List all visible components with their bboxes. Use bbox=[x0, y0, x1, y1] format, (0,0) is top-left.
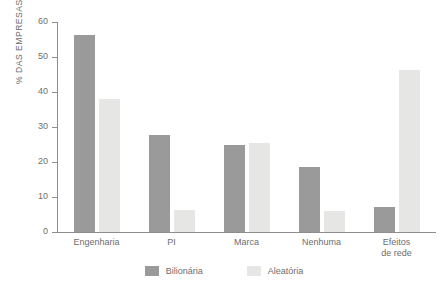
y-tick-mark bbox=[52, 22, 58, 23]
legend-label: Bilionária bbox=[166, 266, 203, 276]
bar-group bbox=[299, 22, 345, 232]
y-tick-mark bbox=[52, 162, 58, 163]
bar-group bbox=[74, 22, 120, 232]
y-tick-label: 40 bbox=[38, 86, 48, 96]
x-axis-line bbox=[57, 232, 436, 233]
y-axis-title: % DAS EMPRESAS bbox=[14, 0, 24, 84]
legend-swatch-icon bbox=[247, 266, 261, 276]
y-tick-mark bbox=[52, 127, 58, 128]
bar bbox=[399, 70, 420, 232]
bar bbox=[374, 207, 395, 232]
bar bbox=[149, 135, 170, 232]
bar bbox=[224, 145, 245, 232]
x-axis-label: Nenhuma bbox=[279, 237, 365, 248]
legend-item[interactable]: Bilionária bbox=[145, 266, 203, 276]
bar bbox=[174, 210, 195, 232]
bar-group bbox=[224, 22, 270, 232]
y-tick-label: 0 bbox=[43, 226, 48, 236]
x-axis-label: Efeitos de rede bbox=[354, 237, 440, 259]
bar-group bbox=[149, 22, 195, 232]
y-tick-label: 30 bbox=[38, 121, 48, 131]
x-axis-label: PI bbox=[129, 237, 215, 248]
bar bbox=[74, 35, 95, 232]
y-tick-label: 10 bbox=[38, 191, 48, 201]
chart-legend: BilionáriaAleatória bbox=[0, 266, 448, 276]
y-tick-label: 60 bbox=[38, 16, 48, 26]
legend-item[interactable]: Aleatória bbox=[247, 266, 304, 276]
bar bbox=[299, 167, 320, 232]
y-tick-mark bbox=[52, 197, 58, 198]
y-tick-label: 50 bbox=[38, 51, 48, 61]
bar bbox=[99, 99, 120, 232]
legend-label: Aleatória bbox=[268, 266, 304, 276]
y-tick-mark bbox=[52, 92, 58, 93]
x-axis-label: Marca bbox=[204, 237, 290, 248]
bar bbox=[324, 211, 345, 232]
bar-chart: % DAS EMPRESAS 0102030405060 EngenhariaP… bbox=[0, 0, 448, 290]
bar bbox=[249, 143, 270, 232]
bar-group bbox=[374, 22, 420, 232]
y-tick-label: 20 bbox=[38, 156, 48, 166]
y-tick-mark bbox=[52, 232, 58, 233]
x-axis-label: Engenharia bbox=[54, 237, 140, 248]
y-tick-mark bbox=[52, 57, 58, 58]
plot-area: 0102030405060 bbox=[57, 22, 432, 232]
legend-swatch-icon bbox=[145, 266, 159, 276]
